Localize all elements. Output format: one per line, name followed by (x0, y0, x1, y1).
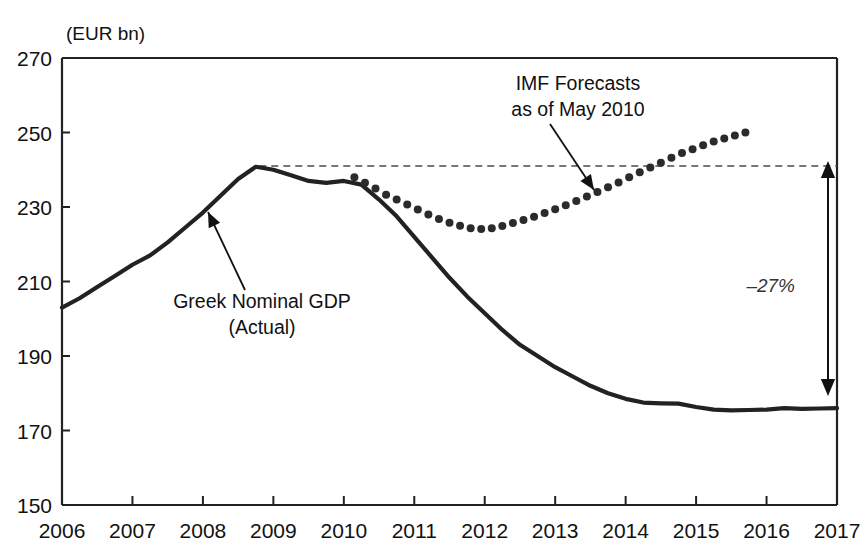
forecast-dot (720, 134, 728, 142)
chart-container: (EUR bn) 270250230210190170150 200620072… (0, 0, 868, 552)
x-tick-label: 2017 (814, 519, 861, 542)
gap-percentage-label: –27% (745, 275, 795, 296)
y-tick-label: 190 (17, 345, 52, 368)
x-tick-label: 2013 (532, 519, 579, 542)
x-tick-label: 2009 (250, 519, 297, 542)
x-tick-label: 2014 (602, 519, 649, 542)
forecast-dot (604, 183, 612, 191)
forecast-dot (361, 179, 369, 187)
x-tick-label: 2006 (39, 519, 86, 542)
forecast-dot (477, 225, 485, 233)
forecast-dot (583, 193, 591, 201)
x-tick-label: 2016 (743, 519, 790, 542)
forecast-dot (403, 200, 411, 208)
forecast-dot (372, 184, 380, 192)
forecast-dot (509, 219, 517, 227)
forecast-dot (467, 224, 475, 232)
annotation-imf-line1: IMF Forecasts (516, 72, 641, 94)
x-tick-label: 2010 (320, 519, 367, 542)
forecast-dot (424, 210, 432, 218)
y-tick-label: 230 (17, 196, 52, 219)
forecast-dot (519, 216, 527, 224)
x-tick-label: 2007 (109, 519, 156, 542)
x-tick-label: 2008 (180, 519, 227, 542)
annotation-actual-line2: (Actual) (228, 316, 295, 338)
y-tick-label: 270 (17, 47, 52, 70)
forecast-dot (699, 141, 707, 149)
x-tick-label: 2015 (673, 519, 720, 542)
forecast-dot (456, 222, 464, 230)
forecast-dot (593, 188, 601, 196)
forecast-dot (446, 219, 454, 227)
forecast-dot (731, 131, 739, 139)
y-axis-unit-label: (EUR bn) (66, 23, 145, 44)
forecast-dot (498, 222, 506, 230)
x-tick-label: 2011 (392, 519, 437, 542)
y-tick-label: 150 (17, 494, 52, 517)
forecast-dot (551, 205, 559, 213)
forecast-dot (530, 213, 538, 221)
forecast-dot (741, 129, 749, 137)
forecast-dot (689, 145, 697, 153)
forecast-dot (615, 178, 623, 186)
y-tick-label: 250 (17, 122, 52, 145)
forecast-dot (636, 168, 644, 176)
forecast-dot (393, 196, 401, 204)
forecast-dot (382, 191, 390, 199)
chart-background (0, 0, 868, 552)
forecast-dot (562, 201, 570, 209)
forecast-dot (414, 206, 422, 214)
forecast-dot (678, 149, 686, 157)
gdp-forecast-chart: (EUR bn) 270250230210190170150 200620072… (0, 0, 868, 552)
forecast-dot (710, 137, 718, 145)
forecast-dot (667, 154, 675, 162)
forecast-dot (625, 173, 633, 181)
x-tick-label: 2012 (461, 519, 508, 542)
forecast-dot (541, 209, 549, 217)
forecast-dot (657, 159, 665, 167)
forecast-dot (572, 197, 580, 205)
y-tick-label: 170 (17, 420, 52, 443)
forecast-dot (488, 224, 496, 232)
y-tick-label: 210 (17, 271, 52, 294)
forecast-dot (435, 215, 443, 223)
forecast-dot (350, 173, 358, 181)
forecast-dot (646, 164, 654, 172)
annotation-actual-line1: Greek Nominal GDP (173, 290, 351, 312)
annotation-imf-line2: as of May 2010 (511, 98, 644, 120)
